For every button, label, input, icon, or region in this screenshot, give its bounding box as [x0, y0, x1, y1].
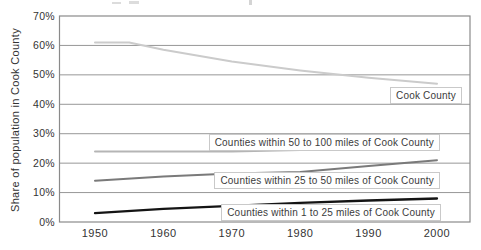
y-tick-label-40pct: 40% [0, 98, 55, 111]
series-label-cook-county: Cook County [390, 87, 462, 104]
series-label-counties-25-50-miles: Counties within 25 to 50 miles of Cook C… [214, 172, 440, 189]
x-tick-label-1990: 1990 [347, 227, 391, 240]
y-tick-label-10pct: 10% [0, 186, 55, 199]
x-tick-label-1960: 1960 [141, 227, 185, 240]
x-tick-label-2000: 2000 [415, 227, 459, 240]
series-line-cook-county [95, 43, 437, 84]
x-tick-label-1950: 1950 [73, 227, 117, 240]
plot-border [60, 16, 471, 222]
y-tick-label-0pct: 0% [0, 216, 55, 229]
y-tick-label-20pct: 20% [0, 157, 55, 170]
y-tick-label-30pct: 30% [0, 127, 55, 140]
x-tick-label-1970: 1970 [210, 227, 254, 240]
series-label-counties-1-25-miles: Counties within 1 to 25 miles of Cook Co… [221, 204, 441, 221]
population-share-line-chart: Share of population in Cook County 0%10%… [0, 0, 481, 250]
series-label-counties-50-100-miles: Counties within 50 to 100 miles of Cook … [209, 134, 440, 151]
y-tick-label-50pct: 50% [0, 68, 55, 81]
y-tick-label-60pct: 60% [0, 39, 55, 52]
x-tick-label-1980: 1980 [278, 227, 322, 240]
y-tick-label-70pct: 70% [0, 10, 55, 23]
y-axis-title: Share of population in Cook County [9, 0, 23, 242]
